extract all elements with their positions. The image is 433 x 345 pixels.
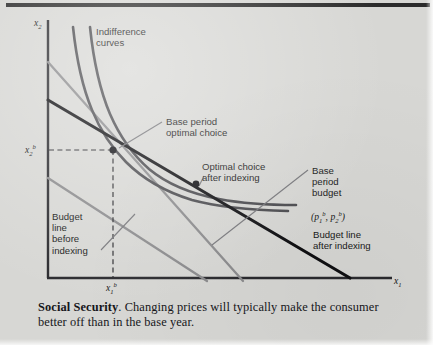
y-tick-label-x2b: x2b [25,143,36,157]
caption-title: Social Security [38,300,118,314]
annotation-budget-line-before-indexing: Budget line before indexing [52,211,88,256]
price-label-p2: p2b [330,211,341,222]
optimal-choice-after-indexing-point [193,181,200,188]
figure-caption: Social Security. Changing prices will ty… [38,300,406,331]
annotation-optimal-choice-after-indexing: Optimal choice after indexing [202,161,265,183]
page-right-shadow [426,0,433,345]
annotation-base-period-budget: Base period budget [312,165,341,199]
annotation-budget-line-after-indexing: Budget line after indexing [313,229,371,251]
price-label-p1: p1b [314,211,325,222]
figure-social-security: x2 x1 x2b x1b Indifference curves Base p… [0,0,433,345]
page-bottom-shadow [0,339,433,345]
leader-lines-group [101,122,308,250]
x-tick-label-x1b: x1b [106,281,117,295]
price-label-close-paren: ) [342,211,345,222]
annotation-indifference-curves: Indifference curves [96,26,146,48]
leader-line-base-period-optimal-choice [119,122,162,148]
annotation-base-period-prices: (p1b, p2b) [311,197,345,227]
x-axis-label: x1 [394,276,402,288]
base-period-optimal-choice-point [109,146,116,153]
y-axis-label: x2 [34,18,42,30]
annotation-base-period-optimal-choice: Base period optimal choice [166,116,227,138]
